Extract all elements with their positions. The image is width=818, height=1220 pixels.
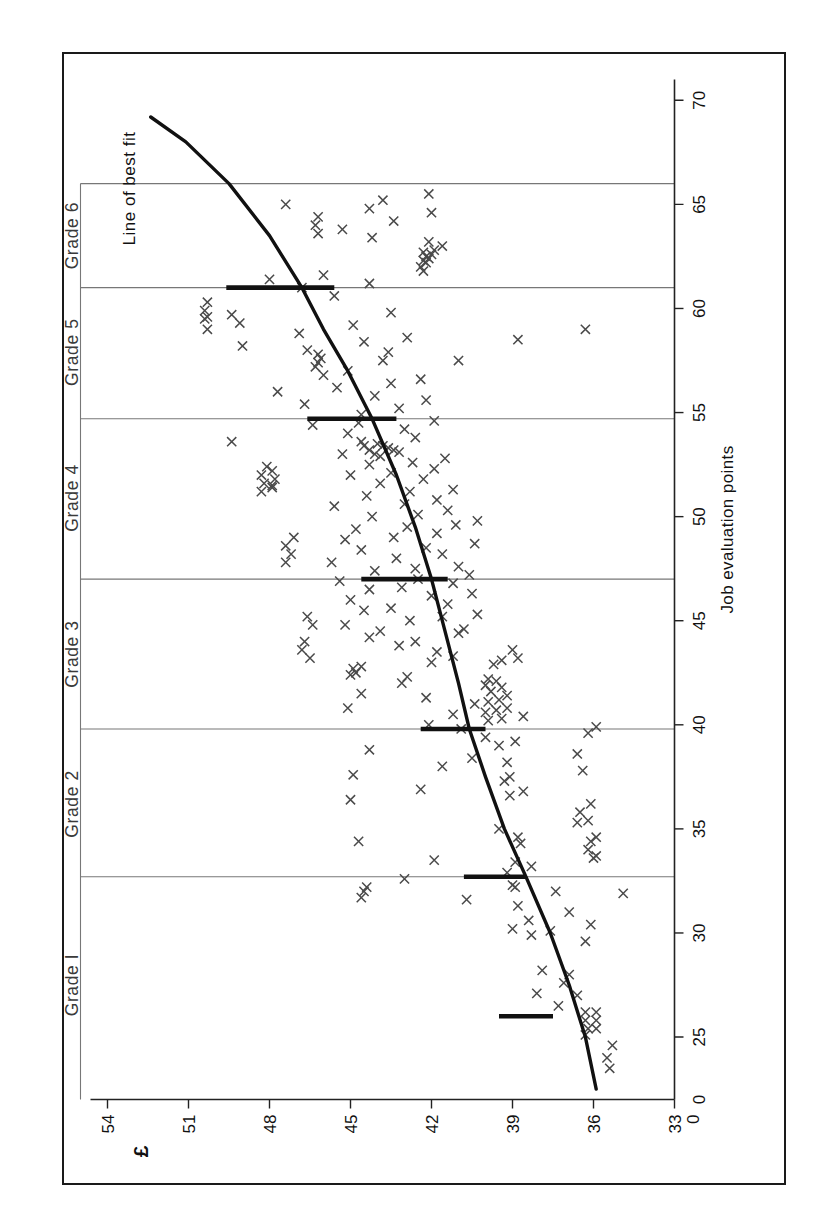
scatter-point — [553, 1001, 562, 1010]
y-tick-label: 51 — [179, 1114, 198, 1133]
scatter-point — [472, 516, 481, 525]
best-fit-curve — [150, 117, 596, 1089]
scatter-point — [602, 1053, 611, 1062]
scatter-point — [340, 620, 349, 629]
scatter-point — [359, 337, 368, 346]
annotations: Line of best fit — [119, 131, 138, 245]
scatter-point — [364, 745, 373, 754]
scatter-point — [532, 988, 541, 997]
scatter-point — [518, 786, 527, 795]
scatter-point — [429, 464, 438, 473]
scatter-point — [364, 203, 373, 212]
scatter-point — [305, 653, 314, 662]
scatter-point — [300, 399, 309, 408]
scatter-point — [607, 1040, 616, 1049]
scatter-point — [518, 711, 527, 720]
y-tick-label: 48 — [260, 1114, 279, 1133]
scatter-point — [462, 895, 471, 904]
scatter-point — [402, 333, 411, 342]
x-tick-label: 30 — [689, 923, 708, 942]
scatter-point — [424, 237, 433, 246]
scatter-point — [588, 853, 597, 862]
scatter-point — [259, 478, 268, 487]
scatter-point — [202, 324, 211, 333]
scatter-point — [364, 584, 373, 593]
scatter-point — [489, 659, 498, 668]
scatter-point — [429, 855, 438, 864]
scatter-point — [256, 470, 265, 479]
scatter-point — [337, 449, 346, 458]
scatter-point — [470, 539, 479, 548]
scatter-point — [337, 224, 346, 233]
scatter-point — [410, 636, 419, 645]
scatter-point — [591, 851, 600, 860]
scatter-point — [580, 324, 589, 333]
grade-band-lines — [80, 183, 674, 1099]
grade-label: Grade 2 — [62, 770, 81, 837]
scatter-point — [313, 212, 322, 221]
y-axis-break-label: 0 — [683, 1114, 702, 1123]
scatter-point — [332, 382, 341, 391]
scatter-point — [227, 437, 236, 446]
scatter-point — [453, 562, 462, 571]
scatter-point — [348, 320, 357, 329]
scatter-point — [302, 345, 311, 354]
scatter-point — [281, 541, 290, 550]
grade-rate-bars — [226, 287, 553, 1016]
scatter-point — [345, 595, 354, 604]
scatter-point — [348, 664, 357, 673]
scatter-point — [507, 924, 516, 933]
grade-label: Grade 4 — [62, 464, 81, 531]
scatter-point — [375, 478, 384, 487]
x-tick-label: 40 — [689, 715, 708, 734]
scatter-point — [470, 699, 479, 708]
x-tick-label: 65 — [689, 194, 708, 213]
scatter-points — [200, 189, 628, 1072]
scatter-point — [421, 693, 430, 702]
scatter-point — [370, 566, 379, 575]
scatter-point — [448, 709, 457, 718]
scatter-point — [591, 832, 600, 841]
scatter-point — [437, 761, 446, 770]
scatter-point — [507, 880, 516, 889]
x-axis-title: Job evaluation points — [717, 445, 736, 613]
x-tick-label: 70 — [689, 90, 708, 109]
scatter-point — [416, 784, 425, 793]
scatter-point — [467, 589, 476, 598]
scatter-point — [418, 247, 427, 256]
scatter-point — [513, 335, 522, 344]
scatter-point — [494, 741, 503, 750]
scatter-point — [483, 716, 492, 725]
scatter-point — [440, 453, 449, 462]
scanned-page: Grade IGrade 2Grade 3Grade 4Grade 5Grade… — [0, 0, 818, 1220]
scatter-point — [578, 766, 587, 775]
scatter-point — [443, 505, 452, 514]
scatter-point — [227, 310, 236, 319]
scatter-point — [281, 557, 290, 566]
scatter-point — [480, 732, 489, 741]
scatter-point — [356, 661, 365, 670]
scatter-point — [273, 387, 282, 396]
scatter-point — [410, 432, 419, 441]
scatter-point — [572, 818, 581, 827]
scatter-point — [294, 328, 303, 337]
chart-rotated-wrapper: Grade IGrade 2Grade 3Grade 4Grade 5Grade… — [62, 52, 786, 1185]
grade-labels: Grade IGrade 2Grade 3Grade 4Grade 5Grade… — [62, 201, 81, 1015]
scatter-point — [364, 460, 373, 469]
scatter-point — [432, 528, 441, 537]
scatter-point — [289, 532, 298, 541]
scatter-point — [343, 428, 352, 437]
scatter-point — [356, 437, 365, 446]
scatter-point — [300, 636, 309, 645]
scatter-point — [327, 557, 336, 566]
y-axis-ticks: 33363942454851540£ — [98, 1099, 702, 1157]
scatter-point — [564, 907, 573, 916]
scatter-point — [575, 807, 584, 816]
x-tick-label: 0 — [689, 1094, 708, 1103]
scatter-point — [524, 915, 533, 924]
scatter-point — [513, 901, 522, 910]
scatter-point — [394, 403, 403, 412]
scatter-point — [537, 965, 546, 974]
x-tick-label: 35 — [689, 819, 708, 838]
scatter-point — [359, 605, 368, 614]
